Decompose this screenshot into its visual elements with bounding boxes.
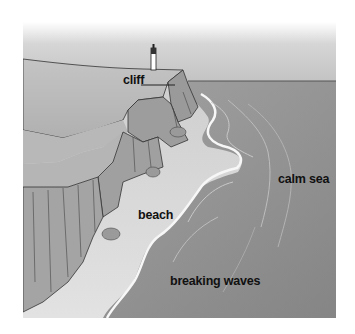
rock bbox=[170, 127, 186, 137]
rock bbox=[146, 167, 160, 177]
label-beach: beach bbox=[138, 208, 173, 222]
label-cliff: cliff bbox=[123, 73, 144, 87]
rock bbox=[102, 228, 120, 240]
lighthouse-icon bbox=[151, 44, 156, 70]
label-breaking-waves: breaking waves bbox=[170, 274, 260, 288]
label-calm-sea: calm sea bbox=[278, 172, 329, 186]
coastline-illustration: cliff beach breaking waves calm sea bbox=[23, 22, 336, 318]
